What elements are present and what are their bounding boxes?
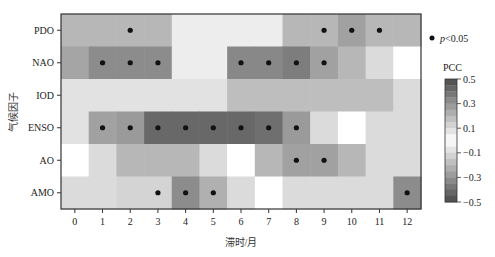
x-tick-label: 12 <box>402 216 412 227</box>
heatmap-cell <box>61 79 89 112</box>
significance-dot <box>183 190 188 195</box>
heatmap-cell <box>172 79 200 112</box>
heatmap-cell <box>89 79 117 112</box>
significance-dot <box>321 28 326 33</box>
x-tick-label: 8 <box>294 216 299 227</box>
heatmap-cell <box>116 144 144 177</box>
heatmap-cell <box>366 112 394 145</box>
heatmap-cell <box>61 177 89 210</box>
colorbar-title: PCC <box>443 62 462 73</box>
significance-dot <box>155 60 160 65</box>
x-tick-label: 6 <box>239 216 244 227</box>
y-axis-title: 气候因子 <box>7 92 19 132</box>
heatmap-cell <box>255 177 283 210</box>
y-tick-label: IOD <box>36 90 54 101</box>
y-axis: PDONAOIODENSOAOAMO <box>28 25 61 199</box>
significance-dot <box>100 125 105 130</box>
heatmap-cell <box>61 144 89 177</box>
heatmap-cell <box>89 144 117 177</box>
heatmap-cell <box>227 79 255 112</box>
heatmap-cell <box>283 14 311 47</box>
heatmap-cell <box>227 144 255 177</box>
x-tick-label: 10 <box>347 216 357 227</box>
x-tick-label: 4 <box>183 216 188 227</box>
heatmap-cell <box>366 47 394 80</box>
y-tick-label: ENSO <box>28 122 54 133</box>
heatmap-cell <box>116 177 144 210</box>
x-tick-label: 3 <box>155 216 160 227</box>
significance-marker-icon <box>430 36 435 41</box>
significance-dot <box>238 60 243 65</box>
heatmap-cell <box>310 112 338 145</box>
heatmap-chart: PDONAOIODENSOAOAMO 0123456789101112 滞时/月… <box>0 0 495 257</box>
heatmap-cell <box>227 177 255 210</box>
x-tick-label: 2 <box>128 216 133 227</box>
significance-dot <box>294 60 299 65</box>
heatmap-cell <box>366 177 394 210</box>
x-axis-title: 滞时/月 <box>225 237 258 248</box>
x-tick-label: 7 <box>266 216 271 227</box>
heatmap-cell <box>227 14 255 47</box>
significance-dot <box>183 125 188 130</box>
significance-dot <box>211 125 216 130</box>
heatmap-cell <box>172 47 200 80</box>
y-tick-label: PDO <box>34 25 54 36</box>
heatmap-cell <box>393 79 421 112</box>
significance-dot <box>405 190 410 195</box>
heatmap-cell <box>116 79 144 112</box>
significance-dot <box>100 60 105 65</box>
heatmap-cell <box>393 112 421 145</box>
heatmap-cell <box>199 79 227 112</box>
significance-dot <box>128 28 133 33</box>
heatmap-cell <box>366 79 394 112</box>
heatmap-cell <box>338 47 366 80</box>
heatmap-cell <box>89 177 117 210</box>
heatmap-cell <box>255 14 283 47</box>
heatmap-cell <box>61 47 89 80</box>
heatmap-cell <box>393 144 421 177</box>
heatmap-cell <box>366 144 394 177</box>
significance-dot <box>294 125 299 130</box>
colorbar-tick-label: 0.3 <box>463 98 476 109</box>
significance-dot <box>377 28 382 33</box>
heatmap-cell <box>199 144 227 177</box>
legend-label: p<0.05 <box>439 33 468 44</box>
significance-dot <box>321 60 326 65</box>
significance-dot <box>155 190 160 195</box>
x-tick-label: 5 <box>211 216 216 227</box>
heatmap-cell <box>393 47 421 80</box>
heatmap-cell <box>61 14 89 47</box>
heatmap-cell <box>338 177 366 210</box>
heatmap-cell <box>255 79 283 112</box>
heatmap-cell <box>338 144 366 177</box>
heatmap-cell <box>283 79 311 112</box>
heatmap-cell <box>338 79 366 112</box>
colorbar-tick-label: 0.1 <box>463 123 476 134</box>
significance-dot <box>266 125 271 130</box>
significance-dot <box>211 190 216 195</box>
significance-dot <box>155 125 160 130</box>
heatmap-cell <box>199 47 227 80</box>
colorbar-tick-label: −0.1 <box>463 147 481 158</box>
significance-dot <box>321 158 326 163</box>
significance-dot <box>128 60 133 65</box>
legend: p<0.05 <box>430 33 469 44</box>
colorbar-tick-label: −0.5 <box>463 197 481 208</box>
significance-dot <box>266 60 271 65</box>
heatmap-cell <box>144 79 172 112</box>
significance-dot <box>349 28 354 33</box>
heatmap-cell <box>89 14 117 47</box>
x-tick-label: 0 <box>72 216 77 227</box>
heatmap-cell <box>199 14 227 47</box>
heatmap-cell <box>144 14 172 47</box>
x-tick-label: 1 <box>100 216 105 227</box>
x-tick-label: 9 <box>322 216 327 227</box>
y-tick-label: AMO <box>31 187 54 198</box>
colorbar-tick-label: −0.3 <box>463 172 481 183</box>
heatmap-cell <box>172 14 200 47</box>
x-tick-label: 11 <box>375 216 385 227</box>
significance-dot <box>294 158 299 163</box>
significance-dot <box>238 125 243 130</box>
heatmap-cell <box>310 79 338 112</box>
heatmap-cell <box>255 144 283 177</box>
